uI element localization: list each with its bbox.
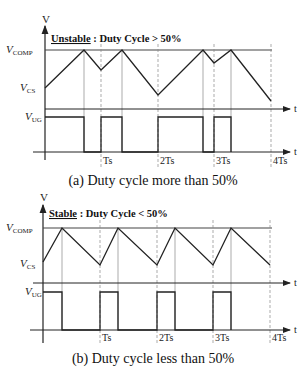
tick-2ts: 2Ts [160,155,174,166]
vcomp-label: VCOMP [6,221,33,235]
panel-b-title: Stable : Duty Cycle < 50% [49,208,168,219]
vcs-label: VCS [20,81,35,95]
tick-3ts: 3Ts [215,332,229,343]
panel-a-unstable: V Unstable : Duty Cycle > 50% VCOMP VCS … [6,13,297,189]
t-label-upper: t [294,103,297,114]
vug-label: VUG [25,110,42,124]
panel-a-caption: (a) Duty cycle more than 50% [68,173,237,189]
tick-3ts: 3Ts [216,155,230,166]
vcs-waveform [43,228,270,265]
tick-ts: Ts [103,155,112,166]
tick-4ts: 4Ts [272,332,286,343]
duty-cycle-diagram: V Unstable : Duty Cycle > 50% VCOMP VCS … [0,0,306,384]
panel-b-stable: V Stable : Duty Cycle < 50% VCOMP VCS t … [6,191,297,367]
y-axis-label: V [40,191,48,203]
panel-b-caption: (b) Duty cycle less than 50% [72,351,234,367]
y-axis-label: V [42,13,50,25]
vug-waveform [45,117,231,152]
tick-ts: Ts [102,332,111,343]
vcomp-label: VCOMP [6,43,33,57]
t-label-lower: t [294,324,297,335]
vcs-label: VCS [20,257,35,271]
period-guides [84,44,271,168]
tick-4ts: 4Ts [273,155,287,166]
panel-a-title: Unstable : Duty Cycle > 50% [51,33,182,44]
t-label-upper: t [294,277,297,288]
vug-waveform [43,292,231,330]
vug-label: VUG [25,285,42,299]
tick-2ts: 2Ts [159,332,173,343]
t-label-lower: t [294,146,297,157]
